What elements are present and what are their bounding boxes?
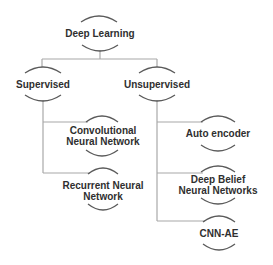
autoencoder-bottom-arc: [201, 145, 235, 151]
node-dbn-line-2: Neural Networks: [179, 185, 258, 196]
node-supervised-label: Supervised: [16, 79, 70, 90]
root-top-arc: [81, 16, 117, 22]
node-dbn-line-1: Deep Belief: [179, 174, 258, 185]
cnn-top-arc: [86, 116, 118, 122]
node-convolutional-neural-network: Convolutional Neural Network: [66, 125, 139, 147]
node-cnn-ae: CNN-AE: [200, 228, 239, 239]
node-deep-learning-label: Deep Learning: [65, 28, 134, 39]
cnnae-bottom-arc: [203, 244, 235, 250]
cnn-bottom-arc: [86, 150, 118, 156]
autoencoder-top-arc: [201, 116, 235, 122]
dbn-top-arc: [201, 166, 235, 172]
node-rnn-line-1: Recurrent Neural: [62, 180, 143, 191]
cnnae-top-arc: [203, 216, 235, 222]
node-unsupervised-label: Unsupervised: [124, 79, 190, 90]
supervised-top-arc: [25, 67, 61, 73]
node-rnn-line-2: Network: [62, 191, 143, 202]
node-recurrent-neural-network: Recurrent Neural Network: [62, 180, 143, 202]
node-auto-encoder: Auto encoder: [186, 128, 250, 139]
node-cnn-line-1: Convolutional: [66, 125, 139, 136]
node-deep-belief-neural-networks: Deep Belief Neural Networks: [179, 174, 258, 196]
node-supervised: Supervised: [16, 79, 70, 90]
unsupervised-top-arc: [139, 67, 175, 73]
rnn-top-arc: [88, 168, 118, 174]
node-deep-learning: Deep Learning: [65, 28, 134, 39]
dbn-bottom-arc: [201, 198, 235, 204]
node-autoencoder-line-1: Auto encoder: [186, 128, 250, 139]
node-unsupervised: Unsupervised: [124, 79, 190, 90]
node-cnn-line-2: Neural Network: [66, 136, 139, 147]
node-cnnae-line-1: CNN-AE: [200, 228, 239, 239]
rnn-bottom-arc: [88, 204, 118, 210]
deep-learning-taxonomy-diagram: Deep Learning Supervised Unsupervised Co…: [0, 0, 273, 265]
